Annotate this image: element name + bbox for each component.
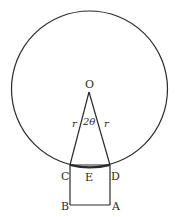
diagram-canvas: O C D E B A r r 2θ: [0, 0, 176, 217]
label-angle-2theta: 2θ: [82, 116, 95, 127]
label-o: O: [85, 78, 94, 91]
label-d: D: [111, 170, 120, 183]
geometry-diagram: O C D E B A r r 2θ: [0, 0, 176, 217]
label-r-left: r: [72, 118, 78, 129]
label-c: C: [61, 170, 69, 183]
label-a: A: [111, 200, 121, 213]
label-b: B: [61, 200, 69, 213]
label-e: E: [85, 171, 93, 184]
label-r-right: r: [104, 118, 110, 129]
